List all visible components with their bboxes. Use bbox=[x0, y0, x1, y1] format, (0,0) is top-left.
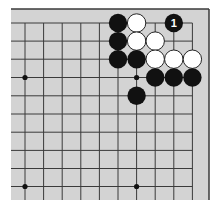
white-stone[interactable] bbox=[165, 50, 183, 68]
white-stone[interactable] bbox=[146, 50, 164, 68]
star-point bbox=[22, 184, 27, 189]
white-stone[interactable] bbox=[146, 32, 164, 50]
go-board[interactable]: 1 bbox=[0, 0, 221, 209]
white-stone[interactable] bbox=[127, 14, 145, 32]
move-number-label: 1 bbox=[171, 17, 177, 29]
white-stone[interactable] bbox=[127, 32, 145, 50]
black-stone[interactable] bbox=[109, 32, 127, 50]
white-stone[interactable] bbox=[183, 50, 201, 68]
black-stone[interactable] bbox=[183, 68, 201, 86]
star-point bbox=[22, 75, 27, 80]
black-stone[interactable] bbox=[146, 68, 164, 86]
star-point bbox=[134, 75, 139, 80]
star-point bbox=[134, 184, 139, 189]
black-stone[interactable] bbox=[165, 68, 183, 86]
black-stone[interactable] bbox=[127, 50, 145, 68]
black-stone[interactable] bbox=[109, 14, 127, 32]
black-stone[interactable] bbox=[127, 87, 145, 105]
black-stone[interactable] bbox=[109, 50, 127, 68]
